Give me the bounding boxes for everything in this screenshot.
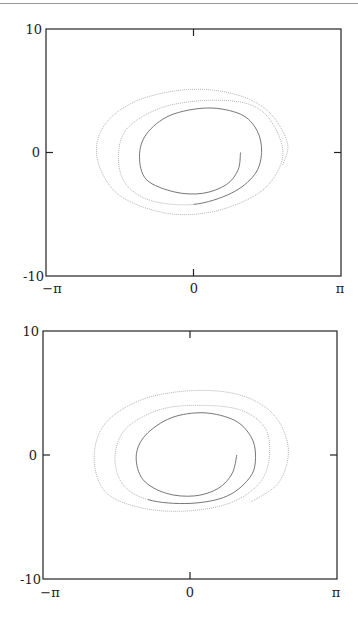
x-tick-label-0: 0 <box>186 586 194 599</box>
y-tick-label-10: 10 <box>22 23 42 36</box>
trajectory-inner <box>136 413 255 504</box>
plot-frame <box>43 331 337 579</box>
x-tick-label-pi: π <box>332 586 341 599</box>
phase-plot-bottom: 10 0 -10 −π 0 π <box>0 300 358 617</box>
plot-frame <box>46 29 341 276</box>
trajectory-outer <box>94 390 288 511</box>
x-tick-label-neg-pi: −π <box>42 282 61 295</box>
plot-area-top <box>0 0 358 300</box>
y-tick-label-10: 10 <box>19 325 39 338</box>
x-tick-label-pi: π <box>336 282 345 295</box>
y-tick-label-neg10: -10 <box>15 573 41 586</box>
y-tick-label-0: 0 <box>19 449 37 462</box>
trajectory-inner <box>140 108 262 204</box>
plot-area-bottom <box>0 300 358 617</box>
x-tick-label-0: 0 <box>190 282 198 295</box>
phase-plot-top: 10 0 -10 −π 0 π <box>0 0 358 300</box>
x-tick-label-neg-pi: −π <box>40 586 59 599</box>
y-tick-label-0: 0 <box>22 146 40 159</box>
y-tick-label-neg10: -10 <box>18 270 44 283</box>
trajectory-outer <box>96 89 287 214</box>
